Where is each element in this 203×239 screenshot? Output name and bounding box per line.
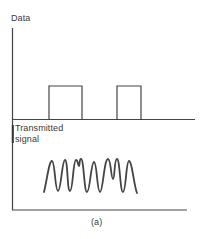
transmitted-waveform [44, 159, 137, 193]
signal-axis-label-line2: signal [15, 134, 63, 145]
data-pulse-2 [117, 86, 141, 120]
figure: Data Transmitted signal (a) [0, 0, 203, 239]
figure-caption: (a) [91, 217, 102, 227]
signal-axis-label-line1: Transmitted [15, 123, 63, 134]
plot-canvas [0, 0, 203, 239]
data-axis-label: Data [11, 13, 30, 23]
signal-axis-label: Transmitted signal [15, 123, 63, 145]
data-pulse-1 [49, 86, 82, 120]
